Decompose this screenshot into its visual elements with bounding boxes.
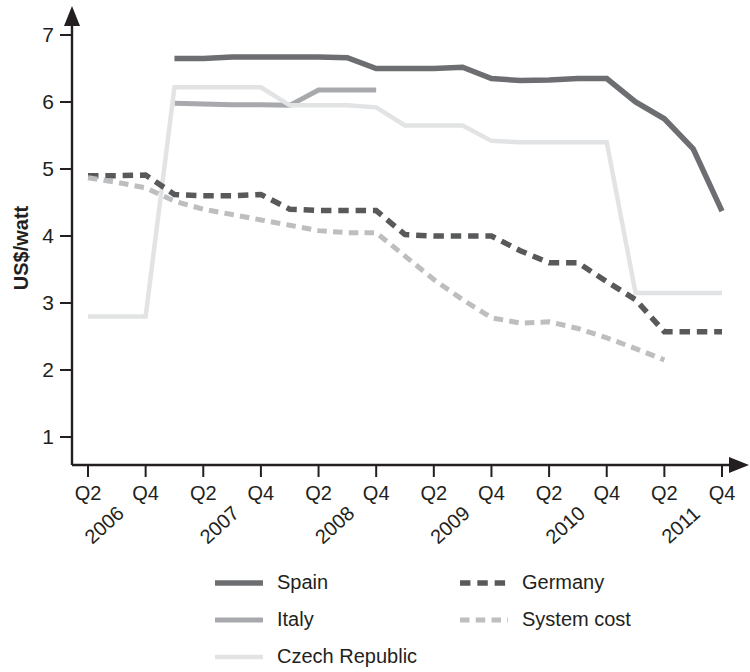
- y-tick-label: 5: [42, 157, 54, 180]
- x-tick-label: Q2: [75, 482, 102, 504]
- x-tick-label: Q4: [363, 482, 390, 504]
- y-tick-label: 7: [42, 23, 54, 46]
- x-tick-label: Q4: [248, 482, 275, 504]
- data-series-group: [88, 57, 722, 360]
- chart-legend: SpainGermanyItalySystem costCzech Republ…: [215, 571, 631, 667]
- chart-container: 1234567 Q2Q4Q2Q4Q2Q4Q2Q4Q2Q4Q2Q4 2006200…: [0, 0, 750, 672]
- x-tick-label: Q2: [420, 482, 447, 504]
- x-axis-arrowhead: [729, 457, 749, 473]
- x-tick-label: Q2: [305, 482, 332, 504]
- x-axis-year-label: 2009: [426, 502, 474, 548]
- axes: [64, 6, 749, 473]
- legend-label-germany: Germany: [522, 571, 604, 593]
- x-axis-year-label: 2006: [80, 502, 128, 548]
- y-tick-label: 4: [42, 224, 54, 247]
- y-axis-tick-labels: 1234567: [42, 23, 54, 448]
- x-axis-year-label: 2007: [196, 502, 244, 548]
- y-tick-label: 6: [42, 90, 54, 113]
- y-tick-label: 2: [42, 358, 54, 381]
- x-tick-label: Q2: [536, 482, 563, 504]
- x-tick-label: Q4: [593, 482, 620, 504]
- legend-label-czech-republic: Czech Republic: [277, 645, 417, 667]
- x-axis-ticks: [88, 465, 722, 477]
- y-axis-title: US$/watt: [10, 205, 32, 290]
- x-axis-year-label: 2011: [657, 502, 704, 547]
- y-tick-label: 1: [42, 425, 54, 448]
- x-axis-year-label: 2008: [311, 502, 359, 548]
- y-tick-label: 3: [42, 291, 54, 314]
- x-tick-label: Q4: [132, 482, 159, 504]
- legend-label-italy: Italy: [277, 608, 314, 630]
- line-chart: 1234567 Q2Q4Q2Q4Q2Q4Q2Q4Q2Q4Q2Q4 2006200…: [0, 0, 750, 672]
- x-axis-year-label: 2010: [541, 502, 589, 548]
- legend-label-spain: Spain: [277, 571, 328, 593]
- x-tick-label: Q4: [478, 482, 505, 504]
- series-line-spain: [174, 57, 722, 211]
- y-axis-ticks: [60, 35, 72, 437]
- y-axis-arrowhead: [64, 6, 80, 26]
- series-line-system-cost: [88, 178, 664, 360]
- x-axis-tick-labels: Q2Q4Q2Q4Q2Q4Q2Q4Q2Q4Q2Q4: [75, 482, 736, 504]
- x-tick-label: Q4: [709, 482, 736, 504]
- x-tick-label: Q2: [651, 482, 678, 504]
- x-tick-label: Q2: [190, 482, 217, 504]
- legend-label-system-cost: System cost: [522, 608, 631, 630]
- x-axis-year-labels: 200620072008200920102011: [80, 502, 704, 548]
